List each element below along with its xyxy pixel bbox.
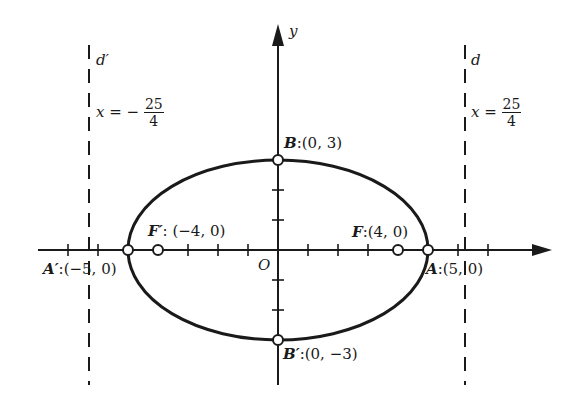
directrix-d-prime-eq-lhs: x = − [96, 103, 144, 121]
point-a-label: A:(5, 0) [426, 262, 483, 277]
directrix-d-equation: x = 254 [471, 97, 521, 128]
fraction-25-4: 254 [502, 97, 522, 128]
y-axis-label: y [289, 24, 297, 39]
origin-label: O [258, 258, 270, 273]
point-b-label: B:(0, 3) [284, 136, 342, 151]
directrix-d-label: d [471, 53, 481, 68]
point-b [273, 155, 283, 165]
point-f-prime [153, 245, 163, 255]
point-a-prime-label: A′:(−5, 0) [43, 262, 117, 277]
diagram-canvas [0, 0, 581, 404]
ellipse-diagram: y O d′ x = − 254 d x = 254 B:(0, 3) B′:(… [0, 0, 581, 404]
directrix-d-prime-equation: x = − 254 [96, 97, 164, 128]
directrix-d-eq-lhs: x = [471, 103, 502, 121]
point-f-prime-label: F′: (−4, 0) [148, 224, 225, 239]
directrix-d-prime-label: d′ [96, 53, 109, 68]
y-axis-arrow-icon [272, 24, 284, 46]
fraction-25-4: 254 [144, 97, 164, 128]
point-a [423, 245, 433, 255]
point-a-prime [123, 245, 133, 255]
point-f [393, 245, 403, 255]
point-b-prime [273, 335, 283, 345]
point-b-prime-label: B′:(0, −3) [283, 347, 358, 362]
point-f-label: F:(4, 0) [352, 225, 408, 240]
x-axis-arrow-icon [532, 244, 552, 256]
